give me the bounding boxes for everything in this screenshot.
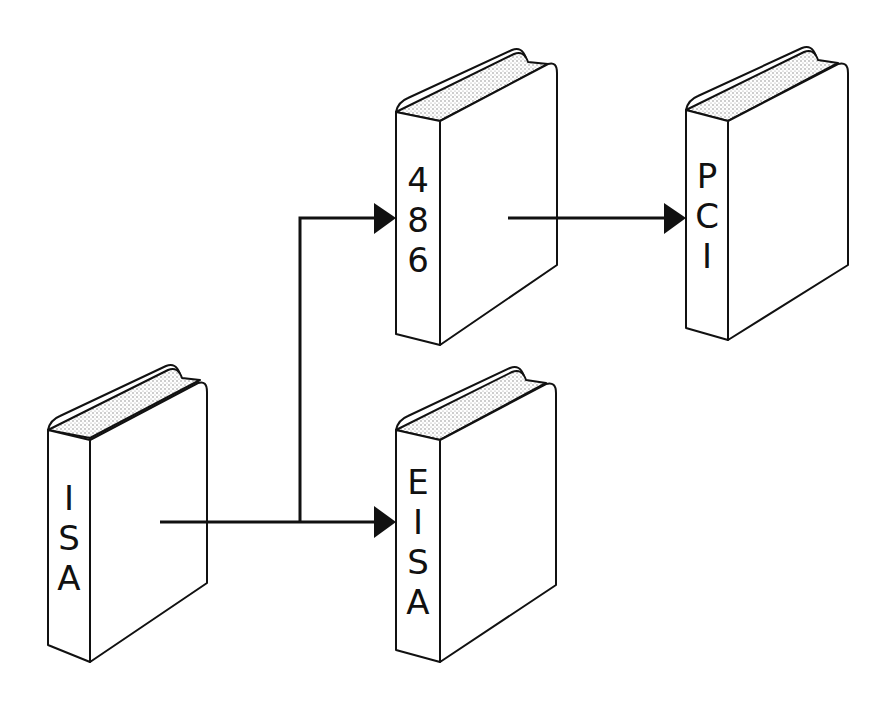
spine-letter: P [697, 156, 718, 196]
spine-letter: I [702, 236, 712, 276]
arrowhead-to-pci [664, 203, 686, 234]
edge-isa-486 [300, 218, 378, 522]
spine-letter: 8 [407, 200, 429, 240]
spine-letter: 6 [407, 240, 429, 280]
spine-letter: S [407, 542, 429, 582]
spine-letter: 4 [407, 160, 429, 200]
arrowhead-to-486 [374, 203, 396, 234]
spine-letter: A [57, 558, 80, 598]
spine-letter: C [695, 196, 719, 236]
spine-letter: S [58, 518, 80, 558]
diagram-canvas: I S A 4 8 6 P C I E I S A [0, 0, 893, 706]
diagram-svg [0, 0, 893, 706]
spine-letter: I [413, 502, 423, 542]
spine-label-isa: I S A [48, 478, 90, 598]
arrowhead-to-eisa [374, 506, 396, 538]
spine-letter: I [64, 478, 74, 518]
spine-letter: A [406, 582, 429, 622]
spine-label-eisa: E I S A [397, 462, 439, 622]
spine-letter: E [407, 462, 428, 502]
spine-label-pci: P C I [686, 156, 728, 276]
spine-label-486: 4 8 6 [397, 160, 439, 280]
